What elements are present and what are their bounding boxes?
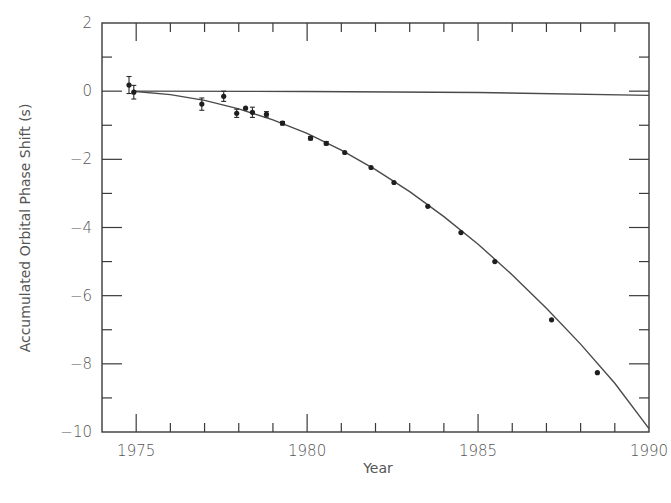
- y-tick-label: −10: [60, 423, 92, 441]
- y-axis-ticks: [102, 57, 649, 398]
- data-point: [308, 136, 313, 141]
- data-point: [458, 230, 463, 235]
- data-point: [368, 165, 373, 170]
- data-point: [425, 204, 430, 209]
- y-tick-label: −2: [70, 150, 92, 168]
- x-axis-ticks: [136, 23, 615, 432]
- reference-line: [133, 91, 649, 95]
- data-point: [199, 102, 204, 107]
- x-tick-label: 1980: [288, 442, 326, 460]
- data-point: [492, 259, 497, 264]
- data-point: [549, 317, 554, 322]
- data-point: [234, 111, 239, 116]
- data-point: [342, 150, 347, 155]
- data-point: [595, 370, 600, 375]
- y-axis-tick-labels: −10−8−6−4−202: [60, 14, 92, 441]
- phase-shift-chart: 1975198019851990 −10−8−6−4−202 Year Accu…: [0, 0, 671, 503]
- data-point: [221, 94, 226, 99]
- y-tick-label: 2: [82, 14, 92, 32]
- data-point: [250, 110, 255, 115]
- data-point: [391, 180, 396, 185]
- data-points: [126, 77, 600, 376]
- y-tick-label: −6: [70, 287, 92, 305]
- x-axis-tick-labels: 1975198019851990: [117, 442, 668, 460]
- x-tick-label: 1975: [117, 442, 155, 460]
- fit-curve-line: [133, 91, 649, 428]
- x-tick-label: 1985: [459, 442, 497, 460]
- plot-border: [102, 23, 649, 432]
- data-point: [264, 112, 269, 117]
- y-tick-label: −4: [70, 219, 92, 237]
- data-point: [324, 141, 329, 146]
- y-axis-title: Accumulated Orbital Phase Shift (s): [17, 104, 33, 353]
- data-point: [243, 106, 248, 111]
- y-tick-label: 0: [82, 82, 92, 100]
- data-point: [280, 121, 285, 126]
- x-axis-title: Year: [362, 460, 393, 476]
- x-tick-label: 1990: [630, 442, 668, 460]
- series-lines: [133, 91, 649, 428]
- y-tick-label: −8: [70, 355, 92, 373]
- data-point: [131, 90, 136, 95]
- data-point: [126, 82, 131, 87]
- plot-frame: [102, 23, 649, 432]
